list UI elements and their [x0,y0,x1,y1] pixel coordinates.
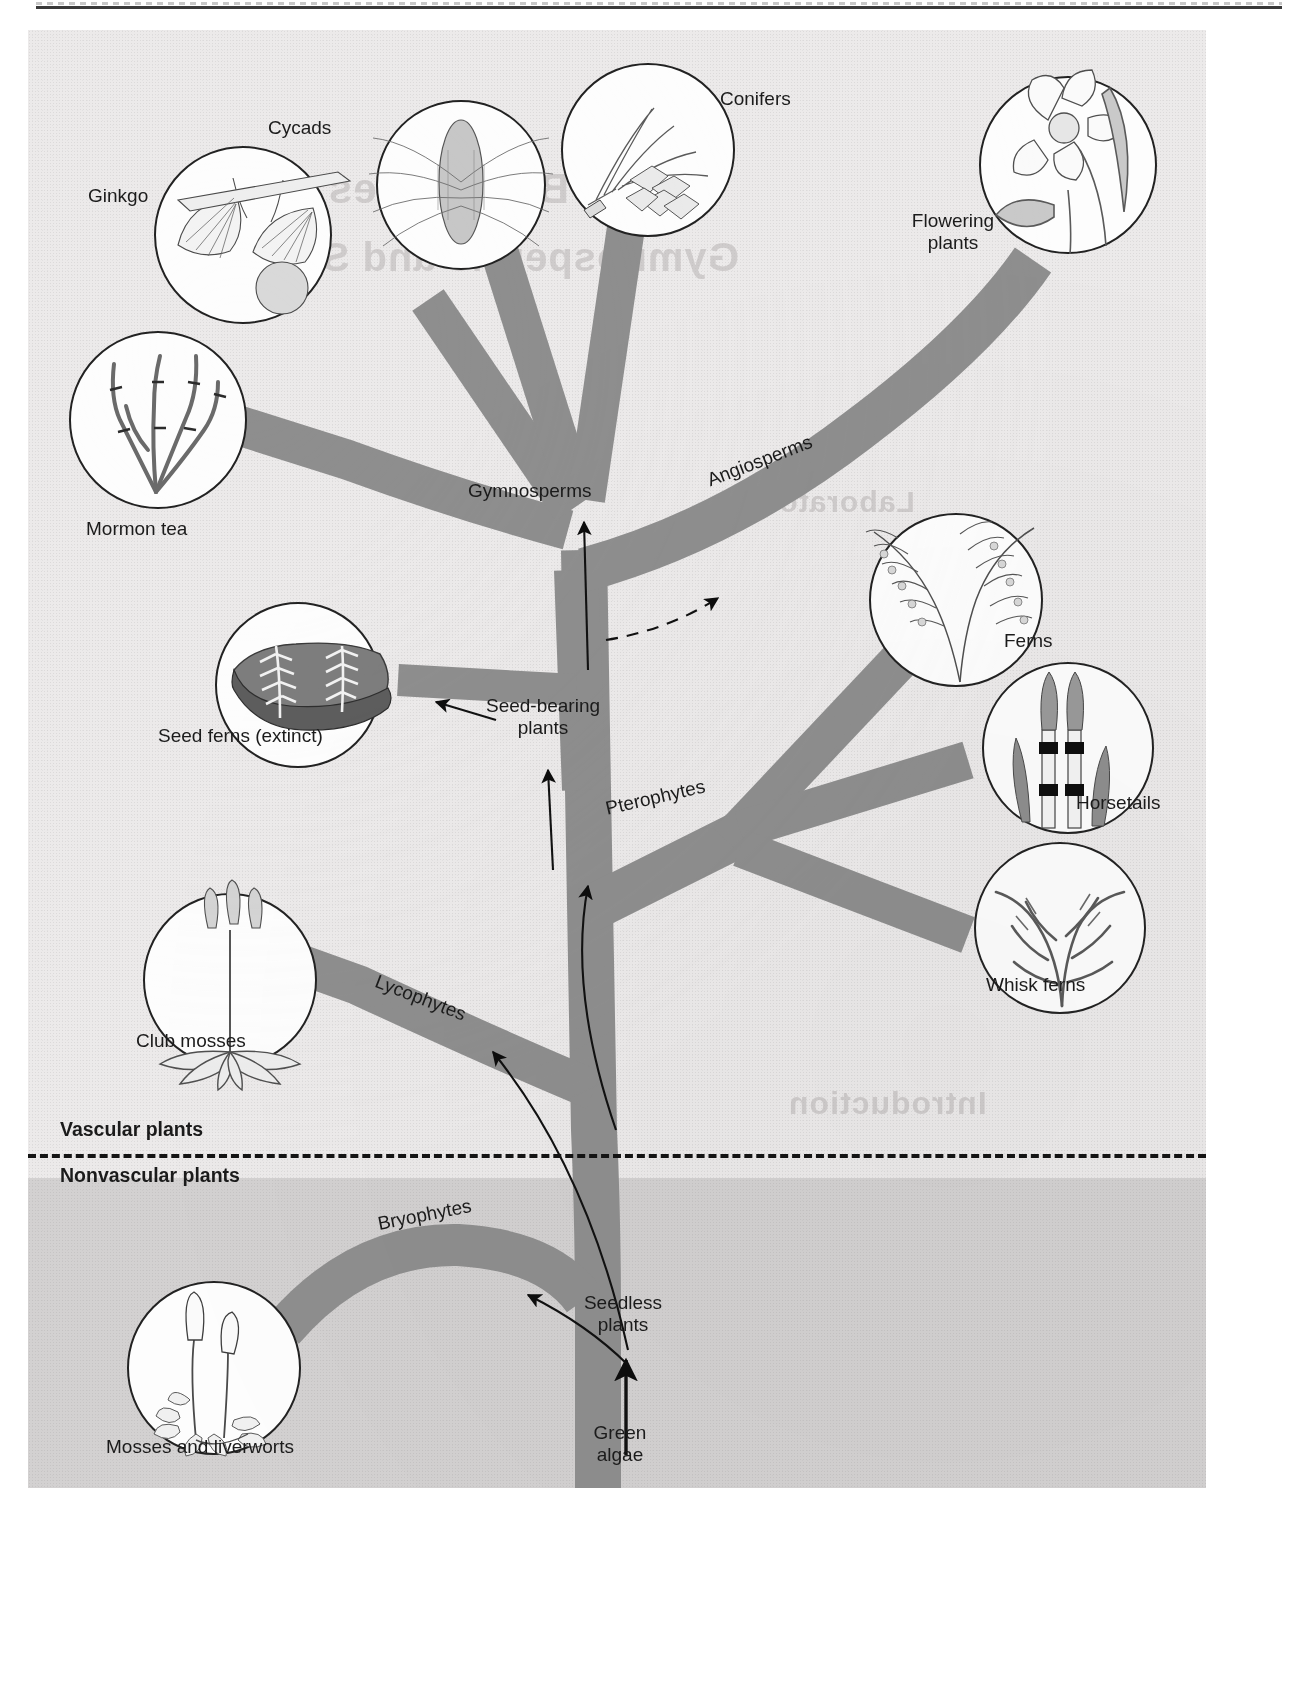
label-seedless-line1: Seedless [553,1292,693,1314]
phylogeny-plate: Bryophytes Gymnosperms and Seedless Labo… [28,30,1206,1488]
cycads-illustration [369,101,553,269]
label-seed-bearing-line2: plants [458,717,628,739]
label-nonvascular-plants: Nonvascular plants [60,1164,240,1186]
label-gymnosperms: Gymnosperms [468,480,592,502]
label-club-mosses: Club mosses [136,1030,246,1052]
conifers-illustration [562,64,734,236]
label-seed-ferns: Seed ferns (extinct) [158,725,323,747]
label-vascular-plants: Vascular plants [60,1118,203,1140]
label-mosses: Mosses and liverworts [106,1436,294,1458]
page-header-rule [36,6,1282,9]
ginkgo-illustration [155,147,350,323]
label-ferns: Ferns [1004,630,1053,652]
club-mosses-illustration [144,880,316,1090]
page-header-rule-ghost [36,2,1282,5]
label-horsetails: Horsetails [1076,792,1160,814]
label-whisk-ferns: Whisk ferns [986,974,1085,996]
label-mormon-tea: Mormon tea [86,518,187,540]
mosses-illustration [128,1282,300,1456]
label-conifers: Conifers [720,88,791,110]
label-ginkgo: Ginkgo [88,185,148,207]
label-green-algae-line1: Green [560,1422,680,1444]
phylogenetic-tree-graphic [28,30,1206,1488]
label-flowering-line2: plants [888,232,1018,254]
label-flowering-line1: Flowering [888,210,1018,232]
mormon-tea-illustration [70,332,246,508]
label-seedless-line2: plants [553,1314,693,1336]
vascular-nonvascular-divider [28,1154,1206,1158]
label-green-algae-line2: algae [560,1444,680,1466]
label-seed-bearing-line1: Seed-bearing [458,695,628,717]
label-cycads: Cycads [268,117,331,139]
figure-page: Bryophytes Gymnosperms and Seedless Labo… [0,0,1312,1693]
